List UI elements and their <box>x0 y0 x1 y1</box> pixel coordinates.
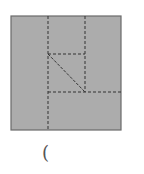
gray-square <box>11 16 121 130</box>
folded-square-diagram <box>0 0 144 174</box>
caption-label: ( <box>42 144 49 162</box>
